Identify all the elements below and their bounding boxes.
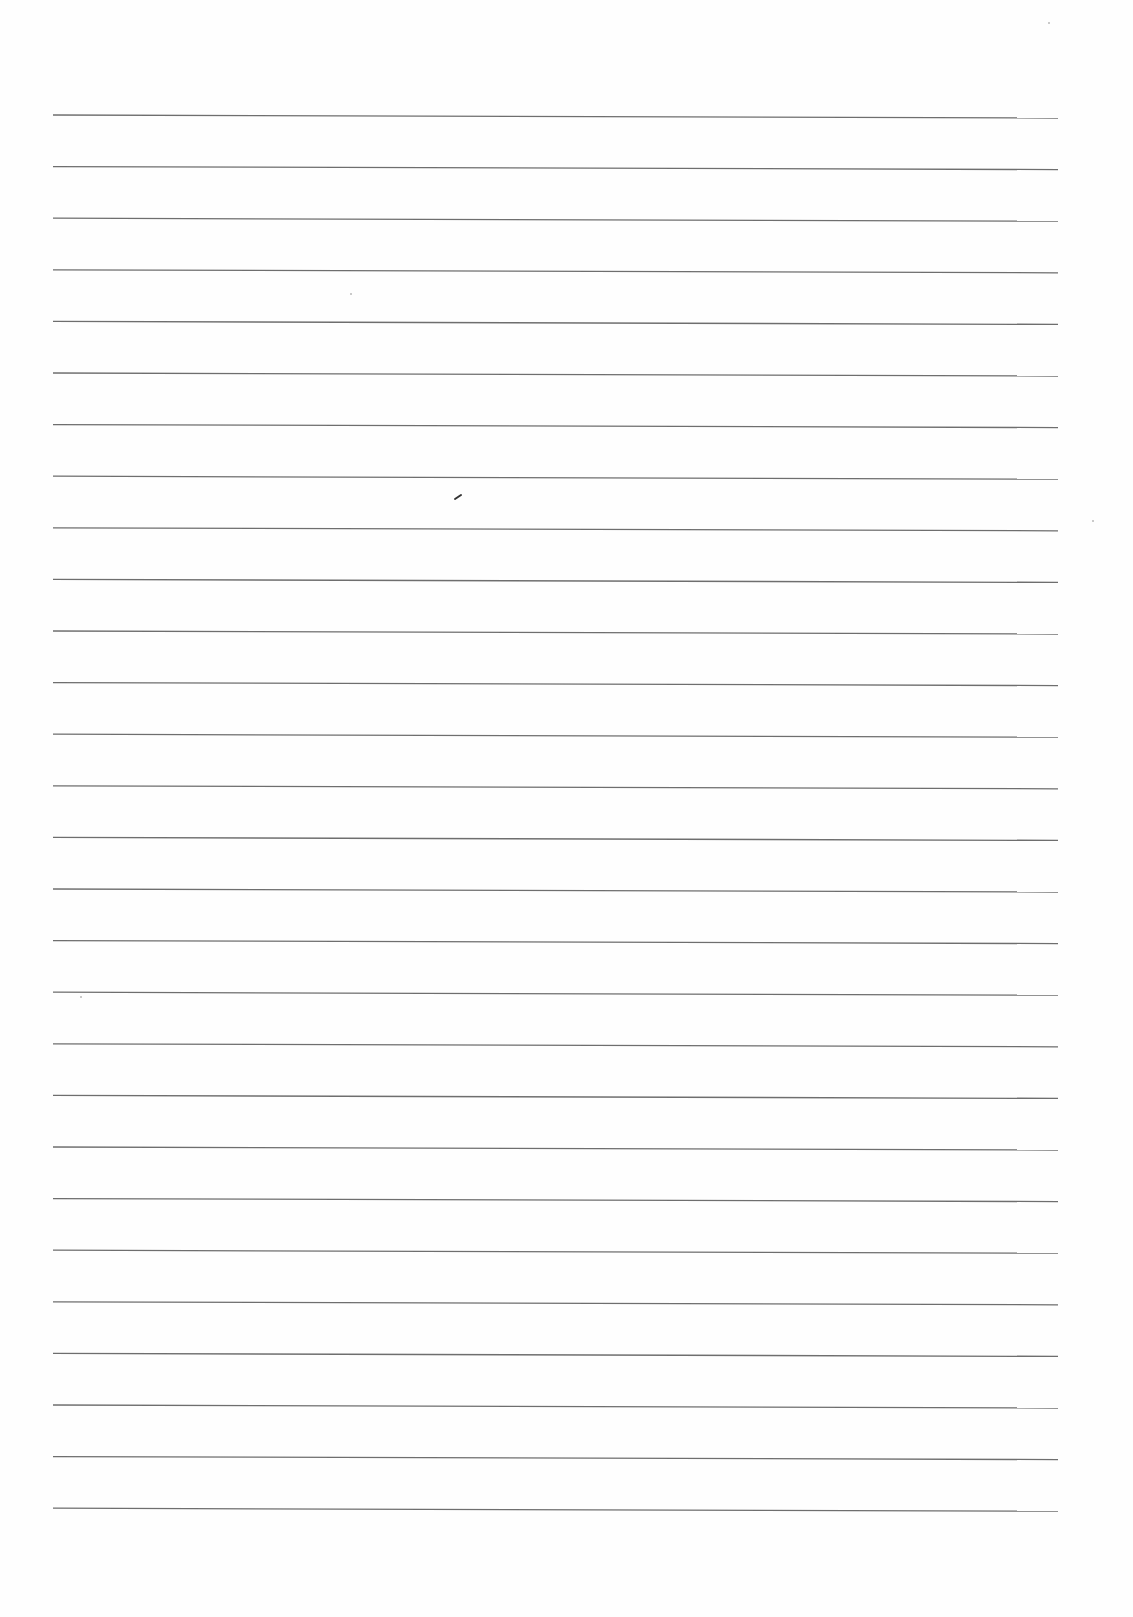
ruled-line (53, 1302, 1058, 1305)
ruled-line (53, 218, 1058, 221)
ruled-line (53, 889, 1058, 892)
ruled-line (53, 1353, 1058, 1356)
ruled-line (53, 528, 1058, 531)
ruled-line (53, 1457, 1058, 1460)
ruled-line (53, 425, 1058, 428)
ruled-line (53, 373, 1058, 376)
pen-mark (455, 495, 461, 499)
ruled-line (53, 1199, 1058, 1202)
paper-speck (1048, 22, 1050, 24)
ruled-line (53, 837, 1058, 840)
ruled-line (53, 1147, 1058, 1150)
ruled-line (53, 1250, 1058, 1253)
ruled-line (53, 167, 1058, 170)
ruled-line (53, 1508, 1058, 1511)
paper-speck (80, 996, 82, 998)
paper-speck (350, 293, 352, 295)
ruled-line (53, 683, 1058, 686)
ruled-line (53, 992, 1058, 995)
ruled-line (53, 476, 1058, 479)
ruled-line (53, 270, 1058, 273)
paper-speck (1092, 520, 1094, 522)
ruled-lines (0, 0, 1133, 1617)
ruled-line (53, 941, 1058, 944)
ruled-line (53, 115, 1058, 118)
ruled-line (53, 631, 1058, 634)
ruled-line (53, 579, 1058, 582)
ruled-line (53, 321, 1058, 324)
ruled-paper-page (0, 0, 1133, 1617)
ruled-line (53, 786, 1058, 789)
ruled-line (53, 1044, 1058, 1047)
ruled-line (53, 1095, 1058, 1098)
ruled-line (53, 734, 1058, 737)
ruled-line (53, 1405, 1058, 1408)
